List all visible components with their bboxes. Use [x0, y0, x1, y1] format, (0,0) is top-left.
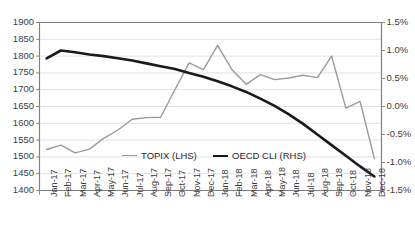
x-axis-tick-label: Jan-17 [50, 169, 59, 197]
x-axis-tick-label: Aug-18 [321, 167, 330, 196]
y-axis-right-tick-label: 0.5% [387, 73, 415, 83]
y-axis-right-tick-label: 1.5% [387, 17, 415, 27]
y-axis-left-tick-label: 1900 [0, 17, 34, 27]
x-axis-tick-label: May-18 [278, 166, 287, 196]
y-axis-left-tick-label: 1500 [0, 151, 34, 161]
x-axis-tick-label: Mar-18 [250, 168, 259, 197]
x-axis-tick-label: Feb-18 [235, 168, 244, 197]
x-axis-tick-label: Feb-17 [64, 168, 73, 197]
x-axis-tick-label: Sep-18 [335, 167, 344, 196]
x-axis-tick-label: Jun-18 [292, 169, 301, 197]
y-axis-left-tick-label: 1700 [0, 84, 34, 94]
y-axis-left-tick-label: 1800 [0, 51, 34, 61]
x-axis-tick-label: Jul-17 [136, 172, 145, 197]
x-axis-tick-label: Jun-17 [121, 169, 130, 197]
y-axis-right-tick-label: 0.0% [387, 101, 415, 111]
y-axis-right-tick-label: 1.0% [387, 45, 415, 55]
legend-label-oecd: OECD CLI (RHS) [232, 150, 306, 161]
y-axis-left-tick-label: 1450 [0, 168, 34, 178]
legend-item-oecd: OECD CLI (RHS) [213, 150, 306, 161]
x-axis-tick-label: Apr-18 [264, 169, 273, 196]
x-axis-tick-label: Oct-18 [349, 169, 358, 196]
x-axis-tick-label: Mar-17 [79, 168, 88, 197]
x-axis-tick-label: May-17 [107, 166, 116, 196]
chart-plot-area [0, 0, 415, 251]
legend-item-topix: TOPIX (LHS) [122, 150, 197, 161]
x-axis-tick-label: Dec-18 [378, 167, 387, 196]
x-axis-tick-label: Oct-17 [178, 169, 187, 196]
x-axis-tick-label: Jul-18 [307, 172, 316, 197]
y-axis-right-tick-label: -1.0% [387, 157, 415, 167]
y-axis-left-tick-label: 1550 [0, 135, 34, 145]
y-axis-left-tick-label: 1750 [0, 67, 34, 77]
x-axis-tick-label: Dec-17 [207, 167, 216, 196]
x-axis-tick-label: Aug-17 [150, 167, 159, 196]
x-axis-tick-label: Nov-18 [364, 167, 373, 196]
x-axis-tick-label: Apr-17 [93, 169, 102, 196]
y-axis-left-tick-label: 1400 [0, 185, 34, 195]
y-axis-right-tick-label: -1.5% [387, 185, 415, 195]
legend-swatch-oecd-icon [213, 155, 228, 157]
series-line-oecd-cli [47, 51, 375, 177]
y-axis-left-tick-label: 1650 [0, 101, 34, 111]
y-axis-right-tick-label: -0.5% [387, 129, 415, 139]
legend-swatch-topix-icon [122, 155, 137, 156]
y-axis-left-tick-label: 1600 [0, 118, 34, 128]
legend-label-topix: TOPIX (LHS) [141, 150, 197, 161]
chart-container: 1400145015001550160016501700175018001850… [0, 0, 415, 251]
x-axis-tick-label: Nov-17 [193, 167, 202, 196]
x-axis-tick-label: Sep-17 [164, 167, 173, 196]
y-axis-left-tick-label: 1850 [0, 34, 34, 44]
x-axis-tick-label: Jan-18 [221, 169, 230, 197]
